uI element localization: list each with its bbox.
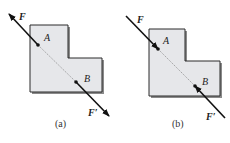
caption-b: (b) <box>172 118 184 130</box>
caption-a: (a) <box>55 118 66 130</box>
force-f-prime-label: F′ <box>87 107 98 118</box>
l-shaped-body <box>30 25 102 92</box>
force-f-prime-label: F′ <box>205 111 216 122</box>
diagram-canvas: A B F F′ (a) A B F F′ (b) <box>0 0 230 143</box>
l-shaped-body <box>149 29 220 96</box>
figure-a: A B F F′ (a) <box>9 11 109 130</box>
point-a-dot <box>36 43 40 47</box>
point-a-label: A <box>162 35 170 46</box>
point-b-dot <box>193 84 197 88</box>
figure-b: A B F F′ (b) <box>126 14 225 130</box>
point-a-dot <box>156 47 160 51</box>
force-f-label: F <box>136 14 144 25</box>
force-f-label: F <box>18 11 26 22</box>
point-b-label: B <box>84 73 90 84</box>
point-b-label: B <box>202 76 208 87</box>
point-a-label: A <box>43 32 51 43</box>
point-b-dot <box>74 80 78 84</box>
